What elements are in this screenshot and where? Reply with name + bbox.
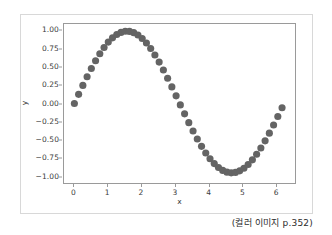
x-tick-mark (107, 184, 108, 187)
y-tick-mark (59, 103, 62, 104)
y-tick-mark (59, 30, 62, 31)
x-tick-mark (141, 184, 142, 187)
scatter-point (194, 135, 201, 142)
scatter-point (181, 110, 188, 117)
x-tick-label: 1 (105, 189, 110, 197)
x-tick-label: 5 (240, 189, 245, 197)
scatter-point (84, 73, 91, 80)
scatter-point (164, 75, 171, 82)
plot-axes-box (63, 23, 296, 184)
x-tick-mark (242, 184, 243, 187)
scatter-point (156, 59, 163, 66)
scatter-point (262, 137, 269, 144)
scatter-point (79, 82, 86, 89)
x-tick-label: 6 (274, 189, 279, 197)
x-axis-title: x (63, 198, 296, 206)
y-tick-label: 0.75 (42, 45, 59, 53)
scatter-point (75, 91, 82, 98)
y-tick-mark (59, 176, 62, 177)
scatter-point (71, 100, 78, 107)
scatter-point (202, 149, 209, 156)
y-tick-label: 0.00 (42, 100, 59, 108)
scatter-point (147, 45, 154, 52)
x-tick-label: 2 (139, 189, 144, 197)
scatter-point (257, 144, 264, 151)
scatter-plot-canvas (64, 24, 295, 183)
y-tick-label: −0.25 (36, 118, 59, 126)
figure-frame: −1.00−0.75−0.50−0.250.000.250.500.751.00… (20, 14, 313, 214)
y-axis-title: y (21, 101, 29, 105)
scatter-point (266, 130, 273, 137)
y-tick-label: −1.00 (36, 173, 59, 181)
scatter-point (151, 51, 158, 58)
y-tick-mark (59, 121, 62, 122)
x-tick-mark (73, 184, 74, 187)
x-tick-label: 4 (206, 189, 211, 197)
scatter-point (88, 65, 95, 72)
y-tick-label: 0.50 (42, 63, 59, 71)
y-tick-mark (59, 85, 62, 86)
x-tick-mark (276, 184, 277, 187)
scatter-point (198, 143, 205, 150)
scatter-point (168, 83, 175, 90)
y-tick-mark (59, 158, 62, 159)
figure-caption: (컬러 이미지 p.352) (0, 216, 313, 230)
scatter-point (160, 66, 167, 73)
y-tick-mark (59, 140, 62, 141)
scatter-point (185, 119, 192, 126)
scatter-point (274, 113, 281, 120)
scatter-point (253, 151, 260, 158)
y-tick-label: −0.50 (36, 136, 59, 144)
scatter-point (96, 50, 103, 57)
scatter-point (177, 101, 184, 108)
scatter-point (173, 92, 180, 99)
y-tick-label: 1.00 (42, 27, 59, 35)
y-tick-mark (59, 48, 62, 49)
x-tick-label: 3 (172, 189, 177, 197)
x-tick-mark (209, 184, 210, 187)
y-tick-label: 0.25 (42, 81, 59, 89)
scatter-series (71, 28, 286, 177)
scatter-point (189, 127, 196, 134)
scatter-point (92, 57, 99, 64)
scatter-point (278, 104, 285, 111)
x-tick-mark (175, 184, 176, 187)
x-tick-label: 0 (71, 189, 76, 197)
y-tick-mark (59, 66, 62, 67)
scatter-point (270, 121, 277, 128)
y-tick-label: −0.75 (36, 155, 59, 163)
